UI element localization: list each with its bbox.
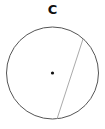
circle-diagram (0, 0, 105, 129)
chord-line (57, 39, 83, 119)
center-point (51, 71, 54, 74)
